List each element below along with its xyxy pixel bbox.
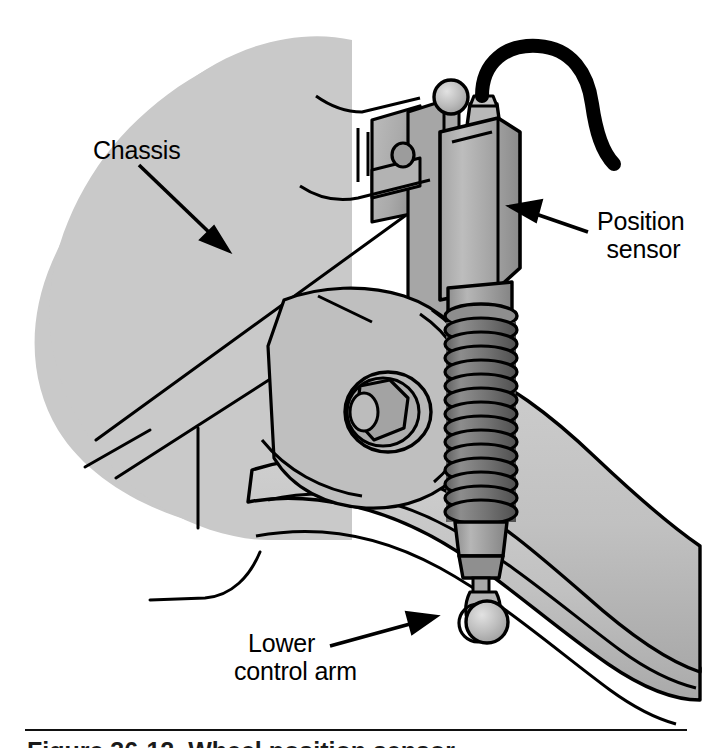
bracket-bolt-hole — [392, 143, 414, 167]
figure-caption: Figure 36-12. Wheel position sensor — [27, 737, 687, 748]
label-position-sensor: Positionsensor — [597, 207, 684, 263]
label-position-sensor-line1: Position — [597, 207, 684, 235]
label-chassis: Chassis — [93, 136, 181, 164]
label-position-sensor-line2: sensor — [597, 235, 684, 263]
flange-bolt — [345, 372, 431, 452]
lower-ball-stud — [459, 592, 508, 643]
caption-divider — [25, 729, 687, 731]
label-lower-control-arm-line1: Lower — [234, 629, 357, 657]
figure-root: Chassis Positionsensor Lowercontrol arm … — [0, 0, 711, 748]
label-lower-control-arm-line2: control arm — [234, 657, 357, 685]
sensor-body — [440, 118, 520, 300]
label-lower-control-arm: Lowercontrol arm — [234, 629, 357, 685]
sensor-bellows — [445, 318, 517, 524]
